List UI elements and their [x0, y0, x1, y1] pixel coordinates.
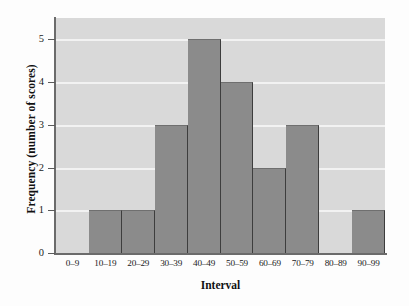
- bar-slot: [352, 18, 385, 253]
- y-axis-tick-label: 2: [30, 163, 44, 173]
- x-axis-tick-label: 40–49: [188, 257, 221, 271]
- x-axis-title: Interval: [56, 279, 385, 291]
- histogram-bar: [89, 210, 122, 253]
- bar-slot: [319, 18, 352, 253]
- bar-slot: [155, 18, 188, 253]
- y-axis-tick: [48, 253, 55, 254]
- bar-slot: [221, 18, 254, 253]
- histogram-bar: [122, 210, 155, 253]
- y-axis-tick: [48, 210, 55, 211]
- y-axis-tick: [48, 125, 55, 126]
- histogram-bar: [253, 168, 286, 253]
- histogram-bar: [352, 210, 385, 253]
- bar-slot: [89, 18, 122, 253]
- y-axis-tick-label: 1: [30, 205, 44, 215]
- bar-slot: [56, 18, 89, 253]
- y-axis-tick-label-text: 0: [30, 248, 44, 258]
- plot-area: [56, 18, 385, 253]
- y-axis-tick: [48, 82, 55, 83]
- bar-slot: [253, 18, 286, 253]
- x-axis-tick-label: 60–69: [253, 257, 286, 271]
- x-axis-tick-label: 70–79: [286, 257, 319, 271]
- bar-series: [56, 18, 385, 253]
- y-axis-tick-label-text: 5: [30, 34, 44, 44]
- x-axis-tick-label: 10–19: [89, 257, 122, 271]
- histogram-bar: [188, 39, 221, 253]
- y-axis-tick-label-text: 2: [30, 163, 44, 173]
- x-axis-tick-label: 80–89: [319, 257, 352, 271]
- bar-slot: [286, 18, 319, 253]
- y-axis-tick: [48, 168, 55, 169]
- x-axis-tick-label: 30–39: [155, 257, 188, 271]
- x-axis-tick-label: 0–9: [56, 257, 89, 271]
- y-axis-tick-label-text: 1: [30, 205, 44, 215]
- x-axis-line: [54, 253, 387, 255]
- histogram-bar: [286, 125, 319, 253]
- bar-slot: [188, 18, 221, 253]
- x-axis-tick-labels: 0–910–1920–2930–3940–4950–5960–6970–7980…: [56, 257, 385, 271]
- y-axis-tick-label: 0: [30, 248, 44, 258]
- histogram-bar: [221, 82, 254, 253]
- x-axis-tick-label: 20–29: [122, 257, 155, 271]
- y-axis-tick-label: 4: [30, 77, 44, 87]
- y-axis-tick-label-text: 3: [30, 120, 44, 130]
- x-axis-tick-label: 50–59: [221, 257, 254, 271]
- y-axis-title: Frequency (number of scores): [25, 24, 37, 254]
- histogram-figure: Frequency (number of scores) 012345 0–91…: [0, 0, 409, 306]
- x-axis-tick-label: 90–99: [352, 257, 385, 271]
- histogram-bar: [155, 125, 188, 253]
- bar-slot: [122, 18, 155, 253]
- y-axis-tick-label-text: 4: [30, 77, 44, 87]
- y-axis-tick-label: 5: [30, 34, 44, 44]
- y-axis-tick: [48, 39, 55, 40]
- y-axis-tick-label: 3: [30, 120, 44, 130]
